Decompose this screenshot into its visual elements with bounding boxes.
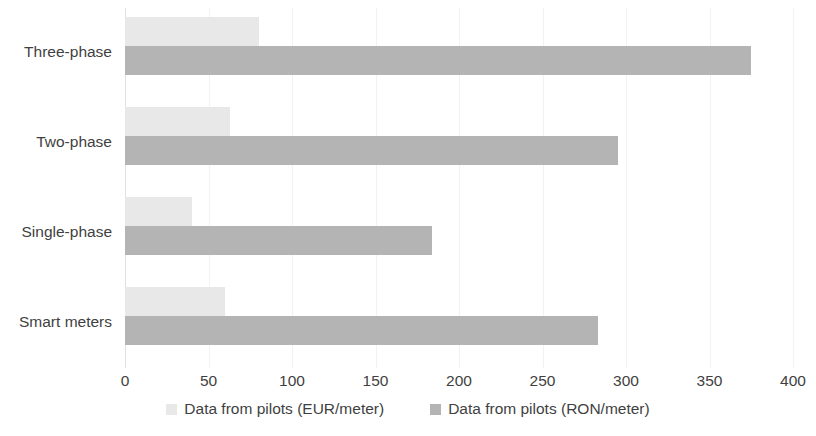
x-tick-label: 350: [697, 372, 723, 390]
bar: [125, 17, 259, 46]
x-tick-label: 150: [363, 372, 389, 390]
bar: [125, 197, 192, 226]
category-label: Smart meters: [0, 313, 112, 331]
gridline: [793, 8, 794, 368]
legend-swatch-icon: [430, 404, 441, 415]
bar: [125, 136, 618, 165]
bar-group: [125, 98, 793, 188]
x-axis: 050100150200250300350400: [125, 368, 793, 394]
x-tick-label: 50: [200, 372, 217, 390]
x-tick-label: 0: [121, 372, 130, 390]
bar: [125, 107, 230, 136]
legend-swatch-icon: [166, 404, 177, 415]
bar: [125, 287, 225, 316]
x-tick-label: 250: [530, 372, 556, 390]
bar-chart: 050100150200250300350400 Data from pilot…: [0, 0, 816, 436]
chart-legend: Data from pilots (EUR/meter)Data from pi…: [0, 400, 816, 418]
x-tick-label: 200: [446, 372, 472, 390]
legend-item[interactable]: Data from pilots (RON/meter): [430, 400, 650, 418]
bar: [125, 226, 432, 255]
legend-label: Data from pilots (RON/meter): [448, 400, 650, 418]
legend-item[interactable]: Data from pilots (EUR/meter): [166, 400, 384, 418]
bar: [125, 316, 598, 345]
category-label: Two-phase: [0, 133, 112, 151]
legend-label: Data from pilots (EUR/meter): [184, 400, 384, 418]
bar-group: [125, 278, 793, 368]
category-label: Single-phase: [0, 223, 112, 241]
x-tick-label: 400: [780, 372, 806, 390]
plot-area: [125, 8, 793, 368]
x-tick-label: 100: [279, 372, 305, 390]
bar: [125, 46, 751, 75]
x-tick-label: 300: [613, 372, 639, 390]
bar-group: [125, 8, 793, 98]
category-label: Three-phase: [0, 43, 112, 61]
bar-group: [125, 188, 793, 278]
